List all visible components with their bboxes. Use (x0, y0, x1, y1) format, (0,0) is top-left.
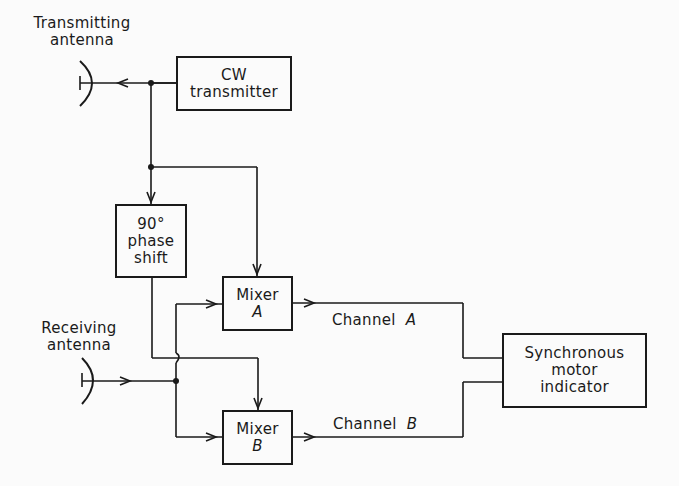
indicator-line3: indicator (540, 379, 609, 396)
channel-b-text: Channel (333, 415, 397, 433)
phase-shift-line2: phase (128, 233, 175, 250)
cw-transmitter-line1: CW (221, 67, 247, 84)
junction-dot-rx (173, 378, 179, 384)
channel-b-id: B (407, 415, 418, 433)
phase-shift-block: 90° phase shift (115, 204, 187, 278)
mixer-b-line1: Mixer (236, 421, 278, 438)
cw-transmitter-line2: transmitter (190, 84, 278, 101)
mixer-a-block: Mixer A (222, 276, 293, 331)
channel-a-label: Channel A (332, 311, 416, 329)
mixer-a-line1: Mixer (236, 287, 278, 304)
transmitting-label-line2: antenna (22, 32, 142, 49)
mixer-b-block: Mixer B (222, 410, 293, 465)
mixer-b-line2: B (252, 438, 263, 455)
receiving-antenna-label: Receiving antenna (28, 320, 130, 354)
receiving-label-line2: antenna (28, 337, 130, 354)
receiving-label-line1: Receiving (28, 320, 130, 337)
synchronous-motor-indicator-block: Synchronous motor indicator (502, 333, 647, 408)
junction-dot-split (148, 164, 154, 170)
phase-shift-line3: shift (134, 250, 168, 267)
channel-a-id: A (406, 311, 417, 329)
channel-a-text: Channel (332, 311, 396, 329)
indicator-line1: Synchronous (525, 345, 625, 362)
junction-dot-tx (148, 80, 154, 86)
phase-shift-line1: 90° (137, 216, 165, 233)
channel-b-label: Channel B (333, 415, 417, 433)
transmitting-antenna-label: Transmitting antenna (22, 15, 142, 49)
indicator-line2: motor (551, 362, 598, 379)
mixer-a-line2: A (252, 304, 263, 321)
cw-transmitter-block: CW transmitter (176, 56, 292, 111)
transmitting-label-line1: Transmitting (22, 15, 142, 32)
wiring-layer (0, 0, 679, 486)
